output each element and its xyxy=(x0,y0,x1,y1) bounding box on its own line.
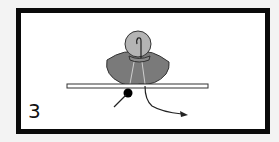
dot-line xyxy=(114,95,126,107)
curved-arrow xyxy=(145,86,182,114)
step-number: 3 xyxy=(28,101,41,121)
horizontal-bar xyxy=(67,84,208,88)
arrowhead-icon xyxy=(180,111,188,117)
diagram-illustration xyxy=(0,0,279,142)
circle-shape xyxy=(125,31,151,57)
